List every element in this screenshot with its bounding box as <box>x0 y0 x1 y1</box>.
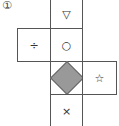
face-top: ▽ <box>50 0 83 29</box>
face-left: ÷ <box>17 28 51 62</box>
face-right: ☆ <box>82 61 117 95</box>
circle-icon: ○ <box>62 40 72 51</box>
division-icon: ÷ <box>29 40 38 51</box>
figure-number-label: ① <box>2 0 12 12</box>
face-center: ○ <box>50 28 83 62</box>
triangle-down-icon: ▽ <box>62 9 70 20</box>
multiply-icon: × <box>62 106 71 117</box>
star-icon: ☆ <box>95 73 105 84</box>
filled-diamond-icon <box>50 61 84 95</box>
face-bottom: × <box>50 94 83 126</box>
face-middle <box>50 61 83 95</box>
